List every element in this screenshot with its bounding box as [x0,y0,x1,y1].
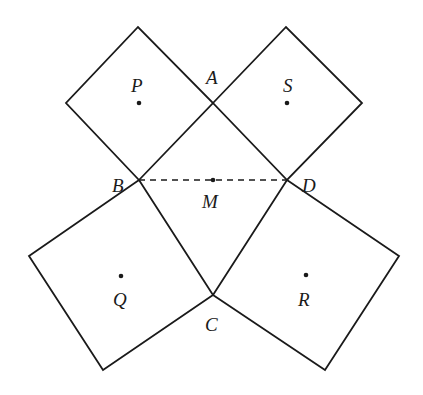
center-point-r [304,273,309,278]
label-s: S [283,75,293,96]
label-p: P [130,75,143,96]
center-point-p [137,101,142,106]
label-b: B [112,175,124,196]
center-point-s [285,101,290,106]
label-d: D [301,175,316,196]
label-q: Q [113,289,127,310]
label-m: M [201,191,219,212]
midpoint-m [211,178,216,183]
geometry-diagram: P S Q R A B C D M [0,0,423,395]
label-a: A [204,67,218,88]
center-point-q [119,274,124,279]
label-r: R [297,289,310,310]
label-c: C [205,314,218,335]
